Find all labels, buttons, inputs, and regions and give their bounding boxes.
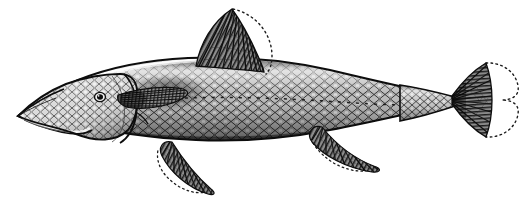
eye-catchlight (98, 95, 100, 97)
eye-pupil (97, 94, 103, 100)
caudal-peduncle (400, 85, 455, 121)
anal-fin (310, 126, 380, 173)
fish-illustration-svg (0, 0, 529, 201)
fish-illustration-figure (0, 0, 529, 201)
caudal-fin (452, 63, 518, 137)
pelvic-fin (157, 142, 214, 195)
dorsal-fin (196, 8, 272, 74)
eye (95, 92, 106, 101)
